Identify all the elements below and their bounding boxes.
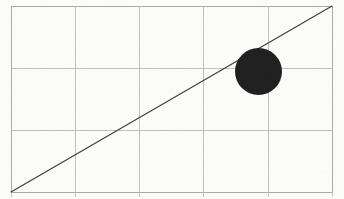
filled-circle — [235, 48, 282, 95]
figure-container — [0, 0, 344, 199]
figure-background — [0, 0, 344, 199]
geometric-figure-svg — [0, 0, 344, 199]
